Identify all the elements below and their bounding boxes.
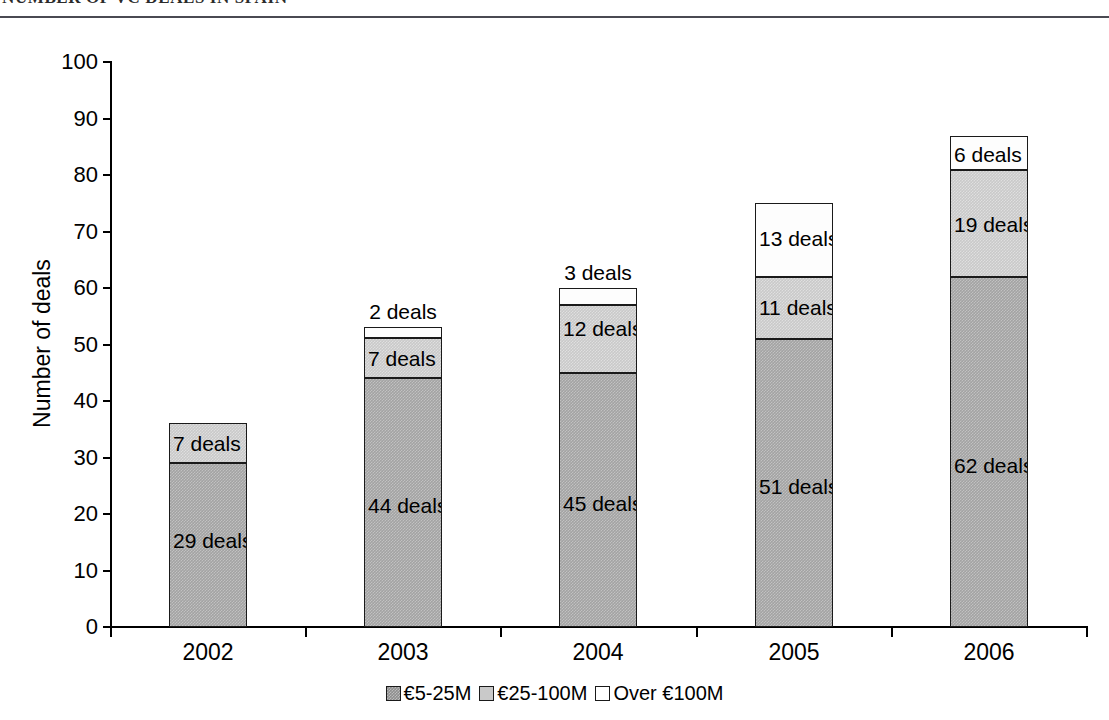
bar-segment-2006-25-100M[interactable]: 19 deals	[950, 170, 1028, 277]
y-tick-mark-20	[103, 513, 111, 515]
bar-segment-2003-over-100M[interactable]	[364, 327, 442, 338]
y-tick-label-90: 90	[42, 108, 98, 130]
y-tick-label-100: 100	[42, 51, 98, 73]
bar-segment-2004-25-100M[interactable]: 12 deals	[559, 305, 637, 373]
x-tick-mark-3	[696, 626, 698, 637]
x-tick-mark-1	[305, 626, 307, 637]
y-tick-label-10: 10	[42, 560, 98, 582]
y-tick-label-60: 60	[42, 277, 98, 299]
bar-segment-label: 19 deals	[954, 214, 1028, 235]
legend-item-5-25M[interactable]: €5-25M	[386, 682, 472, 704]
legend-label-5-25M: €5-25M	[404, 682, 472, 704]
y-tick-label-70: 70	[42, 221, 98, 243]
bar-segment-label: 29 deals	[173, 530, 247, 551]
chart-page: NUMBER OF VC DEALS IN SPAIN Number of de…	[0, 0, 1109, 720]
bar-segment-2004-5-25M[interactable]: 45 deals	[559, 373, 637, 627]
bar-segment-label: 51 deals	[759, 476, 833, 497]
bar-segment-2002-25-100M[interactable]: 7 deals	[169, 423, 247, 463]
bar-segment-label: 13 deals	[759, 228, 833, 249]
x-tick-label-2003: 2003	[333, 638, 473, 666]
bar-segment-outer-label-2003: 2 deals	[338, 301, 468, 322]
y-tick-mark-70	[103, 231, 111, 233]
stacked-bar-chart: Number of deals 100 90 80 70 60 50 40 30…	[0, 0, 1109, 720]
legend-swatch-icon-over-100M	[595, 686, 610, 701]
y-tick-mark-100	[103, 61, 111, 63]
bar-segment-label: 62 deals	[954, 455, 1028, 476]
y-tick-mark-10	[103, 570, 111, 572]
legend-label-25-100M: €25-100M	[497, 682, 587, 704]
x-tick-label-2002: 2002	[138, 638, 278, 666]
y-tick-label-0: 0	[42, 616, 98, 638]
y-tick-mark-80	[103, 174, 111, 176]
y-tick-mark-50	[103, 344, 111, 346]
x-tick-label-2006: 2006	[919, 638, 1059, 666]
x-tick-label-2005: 2005	[724, 638, 864, 666]
bar-segment-label: 11 deals	[759, 297, 833, 318]
bar-segment-label: 6 deals	[954, 144, 1028, 165]
y-tick-label-80: 80	[42, 164, 98, 186]
bar-segment-2006-over-100M[interactable]: 6 deals	[950, 136, 1028, 170]
bar-segment-2004-over-100M[interactable]	[559, 288, 637, 305]
y-tick-label-50: 50	[42, 334, 98, 356]
bar-segment-label: 7 deals	[173, 433, 247, 454]
bar-segment-2005-25-100M[interactable]: 11 deals	[755, 277, 833, 339]
legend-item-over-100M[interactable]: Over €100M	[595, 682, 723, 704]
bar-segment-label: 44 deals	[368, 495, 442, 516]
legend-swatch-icon-5-25M	[386, 686, 401, 701]
bar-segment-label: 12 deals	[563, 318, 637, 339]
legend-label-over-100M: Over €100M	[613, 682, 723, 704]
bar-segment-2006-5-25M[interactable]: 62 deals	[950, 277, 1028, 627]
y-tick-label-40: 40	[42, 390, 98, 412]
bar-segment-2002-5-25M[interactable]: 29 deals	[169, 463, 247, 627]
y-tick-mark-40	[103, 400, 111, 402]
y-tick-mark-30	[103, 457, 111, 459]
x-tick-mark-4	[891, 626, 893, 637]
x-tick-label-2004: 2004	[528, 638, 668, 666]
legend-swatch-icon-25-100M	[479, 686, 494, 701]
bar-segment-2005-5-25M[interactable]: 51 deals	[755, 339, 833, 627]
x-tick-mark-0	[110, 626, 112, 637]
bar-segment-2003-5-25M[interactable]: 44 deals	[364, 378, 442, 627]
bar-segment-label: 45 deals	[563, 493, 637, 514]
legend-item-25-100M[interactable]: €25-100M	[479, 682, 587, 704]
bar-segment-outer-label-2004: 3 deals	[533, 262, 663, 283]
bar-segment-label: 7 deals	[368, 348, 442, 369]
bar-segment-2005-over-100M[interactable]: 13 deals	[755, 203, 833, 277]
y-tick-label-30: 30	[42, 447, 98, 469]
y-tick-label-20: 20	[42, 503, 98, 525]
bar-segment-2003-25-100M[interactable]: 7 deals	[364, 338, 442, 378]
y-axis-labels: 100 90 80 70 60 50 40 30 20 10 0	[30, 0, 98, 720]
x-tick-mark-5	[1086, 626, 1088, 637]
x-tick-mark-2	[500, 626, 502, 637]
y-tick-mark-90	[103, 118, 111, 120]
chart-legend: €5-25M €25-100M Over €100M	[0, 682, 1109, 704]
y-tick-mark-60	[103, 287, 111, 289]
